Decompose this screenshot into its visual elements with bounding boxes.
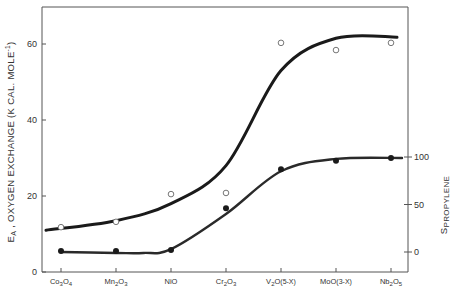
ea-point-open-circle <box>223 190 229 196</box>
chart-container: 0204060 050100 Co3O4Mn2O3NiOCr2O3V2O(5-X… <box>0 0 459 292</box>
chart-svg: 0204060 050100 Co3O4Mn2O3NiOCr2O3V2O(5-X… <box>0 0 459 292</box>
right-tick-label: 50 <box>414 200 424 210</box>
s-propylene-point-filled-circle <box>113 248 119 254</box>
right-tick-label: 0 <box>414 247 419 257</box>
ea-fit-curve <box>46 36 397 231</box>
right-axis-title: SPROPYLENE <box>438 176 451 234</box>
ea-data-points <box>58 40 394 230</box>
category-label: NiO <box>165 277 178 286</box>
ea-point-open-circle <box>388 40 394 46</box>
s-propylene-data-points <box>58 155 394 254</box>
ea-point-open-circle <box>113 219 119 225</box>
right-tick-label: 100 <box>414 152 429 162</box>
ea-point-open-circle <box>58 224 64 230</box>
category-label: Cr2O3 <box>216 277 237 287</box>
s-propylene-point-filled-circle <box>388 155 394 161</box>
s-propylene-point-filled-circle <box>278 166 284 172</box>
category-label: Mn2O3 <box>105 277 129 287</box>
x-ticks: Co3O4Mn2O3NiOCr2O3V2O(5-X)MoO(3-X)Nb2O5 <box>50 268 403 287</box>
category-label: MoO(3-X) <box>320 277 352 286</box>
left-tick-label: 60 <box>27 39 37 49</box>
ea-point-open-circle <box>168 191 174 197</box>
s-propylene-point-filled-circle <box>168 247 174 253</box>
axes-frame <box>42 7 408 272</box>
s-propylene-fit-curve <box>61 158 402 254</box>
left-tick-label: 40 <box>27 115 37 125</box>
category-label: Nb2O5 <box>380 277 403 287</box>
left-axis-title: EA , OXYGEN EXCHANGE (K CAL. MOLE-1) <box>4 42 17 243</box>
left-tick-label: 0 <box>32 267 37 277</box>
ea-point-open-circle <box>333 47 339 53</box>
s-propylene-point-filled-circle <box>223 205 229 211</box>
category-label: Co3O4 <box>50 277 73 287</box>
s-propylene-point-filled-circle <box>58 248 64 254</box>
ea-point-open-circle <box>278 40 284 46</box>
category-label: V2O(5-X) <box>266 277 296 287</box>
left-y-ticks: 0204060 <box>27 39 46 277</box>
s-propylene-point-filled-circle <box>333 158 339 164</box>
left-tick-label: 20 <box>27 191 37 201</box>
